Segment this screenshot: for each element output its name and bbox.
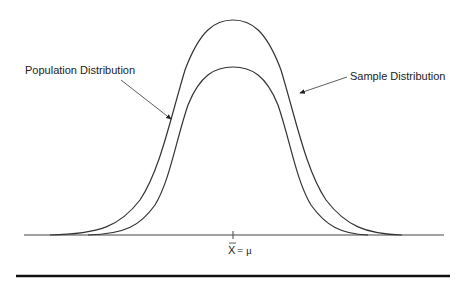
population-distribution-curve xyxy=(88,67,368,235)
distribution-diagram: Population Distribution Sample Distribut… xyxy=(0,0,466,281)
sample-arrow xyxy=(300,77,347,93)
sample-distribution-curve xyxy=(50,20,402,235)
sample-distribution-label: Sample Distribution xyxy=(350,70,445,82)
population-arrow xyxy=(121,80,171,119)
mu-label: = μ xyxy=(237,244,252,256)
population-distribution-label: Population Distribution xyxy=(25,64,135,76)
xbar-label: X xyxy=(228,244,236,256)
